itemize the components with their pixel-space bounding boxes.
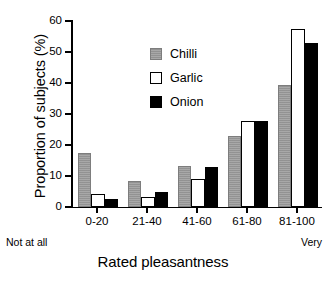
axis-anchor-low: Not at all (6, 236, 47, 248)
x-tick-mark (246, 207, 248, 213)
y-tick-mark (65, 82, 72, 84)
bar-onion-61-80 (255, 121, 268, 207)
legend-item-garlic: Garlic (150, 68, 203, 88)
x-tick-mark (96, 207, 98, 213)
y-tick-mark (65, 206, 72, 208)
y-tick-mark (65, 113, 72, 115)
y-tick-label: 40 (22, 77, 62, 89)
bar-chilli-21-40 (128, 181, 141, 207)
y-tick-mark (65, 20, 72, 22)
x-tick-mark (146, 207, 148, 213)
bar-onion-0-20 (105, 199, 118, 207)
y-tick-label: 60 (22, 15, 62, 27)
x-axis-title: Rated pleasantness (0, 253, 326, 270)
bar-chilli-61-80 (228, 136, 241, 207)
bar-chilli-81-100 (278, 85, 291, 207)
y-tick-label: 50 (22, 46, 62, 58)
legend-swatch-chilli-icon (150, 48, 162, 60)
bar-onion-81-100 (305, 43, 318, 207)
legend-swatch-onion-icon (150, 96, 162, 108)
legend-item-chilli: Chilli (150, 44, 203, 64)
y-tick-label: 30 (22, 108, 62, 120)
x-tick-label: 81-100 (262, 215, 326, 227)
bar-chart-figure: Proportion of subjects (%) 0102030405060… (0, 0, 326, 285)
x-tick-mark (196, 207, 198, 213)
bar-garlic-81-100 (291, 29, 304, 207)
bar-onion-41-60 (205, 167, 218, 207)
y-tick-mark (65, 144, 72, 146)
bar-chilli-0-20 (78, 153, 91, 207)
legend-label: Onion (170, 96, 203, 109)
bar-garlic-61-80 (241, 121, 254, 207)
bar-garlic-0-20 (91, 194, 104, 207)
legend-item-onion: Onion (150, 92, 203, 112)
legend-swatch-garlic-icon (150, 72, 162, 84)
bar-onion-21-40 (155, 192, 168, 208)
chart-legend: ChilliGarlicOnion (150, 44, 203, 116)
y-tick-label: 0 (22, 201, 62, 213)
bar-chilli-41-60 (178, 166, 191, 207)
y-tick-mark (65, 51, 72, 53)
legend-label: Garlic (170, 72, 203, 85)
y-tick-label: 10 (22, 170, 62, 182)
x-tick-mark (296, 207, 298, 213)
y-tick-label: 20 (22, 139, 62, 151)
y-tick-mark (65, 175, 72, 177)
legend-label: Chilli (170, 48, 197, 61)
bar-garlic-21-40 (141, 197, 154, 207)
bar-garlic-41-60 (191, 179, 204, 207)
axis-anchor-high: Very (301, 236, 322, 248)
